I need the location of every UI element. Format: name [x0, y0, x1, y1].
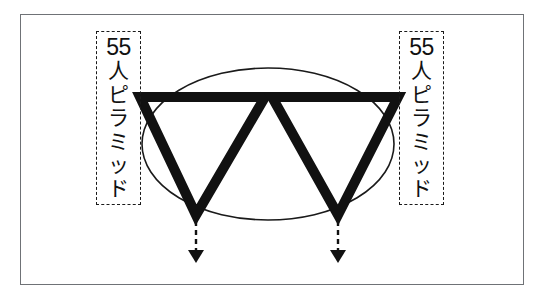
left-label-char-4: ッ [108, 154, 129, 178]
left-label-vertical-text: 人 ピ ラ ミ ッ ド [108, 60, 129, 201]
right-label-number: 55 [409, 35, 434, 59]
right-label-char-4: ッ [411, 154, 432, 178]
left-label-char-3: ミ [108, 131, 129, 155]
left-label-number: 55 [106, 35, 131, 59]
left-down-arrow [188, 221, 204, 263]
outline-ellipse [142, 68, 394, 220]
right-label-char-1: ピ [411, 84, 432, 108]
right-label-char-2: ラ [411, 107, 432, 131]
figure-layer [0, 0, 533, 295]
left-label-char-5: ド [108, 178, 129, 202]
right-label-box: 55 人 ピ ラ ミ ッ ド [399, 31, 444, 205]
left-label-box: 55 人 ピ ラ ミ ッ ド [96, 31, 141, 205]
right-down-arrow [330, 221, 346, 263]
left-label-char-2: ラ [108, 107, 129, 131]
right-label-char-5: ド [411, 178, 432, 202]
right-label-char-0: 人 [411, 60, 432, 84]
right-label-char-3: ミ [411, 131, 432, 155]
left-label-char-1: ピ [108, 84, 129, 108]
right-triangle [272, 97, 398, 215]
left-label-char-0: 人 [108, 60, 129, 84]
right-label-vertical-text: 人 ピ ラ ミ ッ ド [411, 60, 432, 201]
diagram-canvas: 55 人 ピ ラ ミ ッ ド 55 人 ピ ラ ミ ッ ド [0, 0, 533, 295]
left-triangle [140, 97, 265, 215]
